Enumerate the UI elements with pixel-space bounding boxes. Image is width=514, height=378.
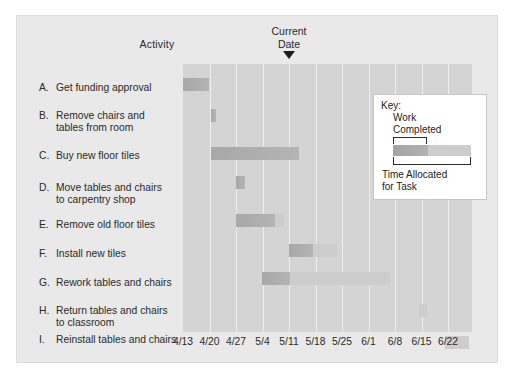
activity-text-line1: Remove old floor tiles <box>56 219 189 231</box>
legend-sample-bar <box>393 145 471 156</box>
legend-work-line2: Completed <box>393 124 441 136</box>
activity-label-b: B.Remove chairs andtables from room <box>39 110 189 134</box>
activity-label-f: F.Install new tiles <box>39 248 189 260</box>
activity-label-g: G.Rework tables and chairs <box>39 277 189 289</box>
legend-time-line1: Time Allocated <box>382 169 447 181</box>
legend-work-brace <box>393 137 427 144</box>
gantt-bar-work-completed <box>262 272 290 285</box>
gridline <box>263 64 264 332</box>
gantt-bar <box>236 214 284 227</box>
gridline <box>236 64 237 332</box>
legend-time-brace <box>393 157 471 165</box>
chart-legend: Key: Work Completed Time Allocated for T… <box>373 94 487 200</box>
gridline <box>316 64 317 332</box>
activity-label-h: H.Return tables and chairsto classroom <box>39 305 189 329</box>
activity-letter: G. <box>39 277 52 289</box>
activity-label-a: A.Get funding approval <box>39 82 189 94</box>
gridline <box>210 64 211 332</box>
date-tick-label: 6/22 <box>428 336 468 347</box>
gantt-bar <box>289 244 337 257</box>
gantt-chart-figure: Activity Current Date A.Get funding appr… <box>17 16 497 362</box>
gantt-bar-time-allocated <box>313 244 337 257</box>
activity-letter: I. <box>39 334 52 346</box>
activity-label-c: C.Buy new floor tiles <box>39 150 189 162</box>
activity-text-line2: to carpentry shop <box>56 194 189 206</box>
gantt-bar <box>211 147 299 160</box>
activity-text-line1: Buy new floor tiles <box>56 150 189 162</box>
current-date-label-line2: Date <box>249 38 329 51</box>
activity-text-line1: Install new tiles <box>56 248 189 260</box>
activity-label-e: E.Remove old floor tiles <box>39 219 189 231</box>
gantt-bar-work-completed <box>211 109 216 122</box>
gantt-bar <box>211 109 216 122</box>
legend-work-completed-label: Work Completed <box>393 112 441 135</box>
activity-column-header: Activity <box>97 38 217 50</box>
gantt-bar-work-completed <box>236 214 275 227</box>
gantt-bar-work-completed <box>236 176 245 189</box>
gridline <box>369 64 370 332</box>
activity-text-line1: Remove chairs and <box>56 110 189 122</box>
activity-letter: H. <box>39 305 52 317</box>
gridline <box>342 64 343 332</box>
gantt-bar-time-allocated <box>419 304 427 317</box>
gantt-bar-time-allocated <box>275 214 284 227</box>
legend-time-line2: for Task <box>382 181 447 193</box>
gantt-bar <box>419 304 427 317</box>
activity-letter: B. <box>39 110 52 122</box>
activity-text-line2: tables from room <box>56 122 189 134</box>
activity-letter: F. <box>39 248 52 260</box>
gantt-bar-work-completed <box>289 244 313 257</box>
activity-letter: C. <box>39 150 52 162</box>
activity-text-line1: Get funding approval <box>56 82 189 94</box>
legend-time-allocated-swatch <box>428 145 471 156</box>
legend-key-label: Key: <box>381 100 401 111</box>
activity-text-line1: Return tables and chairs <box>56 305 189 317</box>
gantt-bar-work-completed <box>211 147 299 160</box>
gantt-bar-time-allocated <box>290 272 390 285</box>
current-date-marker: Current Date <box>249 25 329 59</box>
activity-text-line2: to classroom <box>56 317 189 329</box>
activity-text-line1: Rework tables and chairs <box>56 277 189 289</box>
activity-letter: A. <box>39 82 52 94</box>
current-date-label-line1: Current <box>249 25 329 38</box>
activity-letter: D. <box>39 182 52 194</box>
legend-work-line1: Work <box>393 112 441 124</box>
activity-letter: E. <box>39 219 52 231</box>
activity-text-line1: Move tables and chairs <box>56 182 189 194</box>
legend-time-allocated-label: Time Allocated for Task <box>382 169 447 192</box>
legend-work-completed-swatch <box>393 145 428 156</box>
gridline <box>289 64 290 332</box>
gantt-bar <box>236 176 245 189</box>
gantt-bar <box>262 272 390 285</box>
current-date-arrow-icon <box>283 51 295 59</box>
activity-label-d: D.Move tables and chairsto carpentry sho… <box>39 182 189 206</box>
